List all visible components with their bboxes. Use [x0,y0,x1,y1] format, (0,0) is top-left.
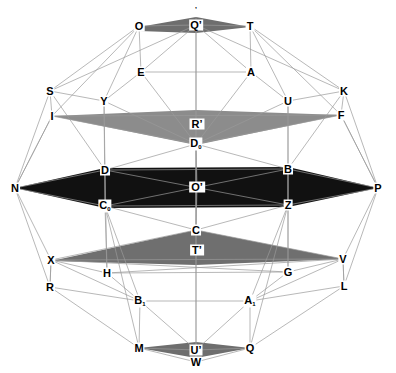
edge-O-S [50,26,139,91]
edge-D0-B [196,144,288,169]
vertex-label-B: B [283,164,293,175]
vertex-label-S: S [45,86,54,97]
edge-S-D [50,91,105,170]
vertex-label-C: C [191,225,201,236]
vertex-label-subscript: 1 [142,301,145,307]
edge-L-P [344,188,378,286]
vertex-label-I: I [49,111,54,122]
vertex-label-subscript: 1 [252,301,255,307]
vertex-label-T: T [246,21,255,32]
edge-S-Y [50,91,104,101]
vertex-label-X: X [46,255,55,266]
vertex-label-N: N [10,183,20,194]
edge-T-F [250,26,341,115]
vertex-label-Qp: Q’ [189,20,203,31]
edge-S-Qp [50,25,196,91]
edge-S-N [15,91,50,188]
edge-P-V [343,188,378,259]
edge-N-X [15,188,51,260]
vertex-label-B1: B1 [133,295,146,308]
vertex-label-W: W [190,357,202,368]
edge-A1-Up [196,301,250,350]
edge-C-C0 [105,206,196,230]
edge-B1-Up [140,301,196,350]
edge-Qp-A [196,25,251,72]
vertex-label-Up: U’ [190,345,203,356]
edge-C-Z [196,205,288,230]
edge-N-I [15,116,52,188]
vertex-label-G: G [283,267,294,278]
vertex-label-Rp: R’ [190,119,205,130]
vertex-label-Op: O’ [189,182,205,193]
edge-R-M [50,287,139,348]
vertex-label-F: F [337,110,346,121]
vertex-label-Y: Y [99,96,108,107]
vertex-label-Tp: T’ [190,245,204,256]
vertex-label-D: D [100,165,110,176]
edge-X-B1 [51,260,140,301]
edge-K-P [344,91,378,188]
vertex-label-H: H [102,268,112,279]
vertex-label-P: P [373,183,382,194]
vertex-label-O: O [134,21,145,32]
vertex-label-Jmark: ’ [194,4,198,15]
edge-O-Y [104,26,139,101]
edge-O-I [52,26,139,116]
edge-K-Qp [196,25,344,91]
edge-D0-D [105,144,196,170]
edge-L-A1 [250,286,344,301]
vertex-label-subscript: 0 [198,144,201,150]
vertex-label-C0: C0 [98,200,111,213]
edge-Qp-E [141,25,196,72]
vertex-label-A1: A1 [243,295,256,308]
vertex-label-A: A [246,67,256,78]
edge-P-F [341,115,378,188]
vertex-label-subscript: 0 [107,206,110,212]
edge-K-U [288,91,344,101]
vertex-label-Z: Z [284,200,293,211]
diagram-canvas: ’OQ’TEASKYUIFR’D0DBNPO’C0ZCT’XVHGRLB1A1M… [0,0,396,373]
edge-K-B [288,91,344,169]
vertex-label-Q: Q [245,343,256,354]
edge-R-N [15,188,50,287]
vertex-label-U: U [283,96,293,107]
edge-T-K [250,26,344,91]
vertex-label-K: K [339,86,349,97]
vertex-label-D0: D0 [189,138,202,151]
vertex-label-L: L [340,281,349,292]
vertex-label-M: M [133,343,144,354]
vertex-label-E: E [136,67,145,78]
vertex-label-V: V [338,254,347,265]
vertex-label-R: R [45,282,55,293]
